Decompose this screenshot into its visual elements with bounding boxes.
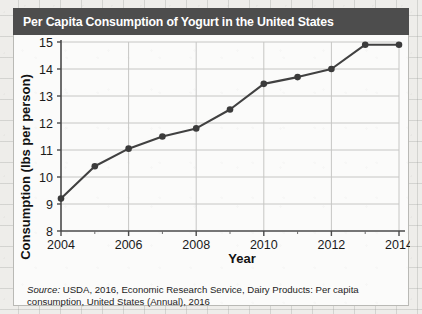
source-label: Source: <box>27 284 60 295</box>
data-point <box>193 125 200 132</box>
source-text: USDA, 2016, Economic Research Service, D… <box>27 284 359 307</box>
data-point <box>328 66 335 73</box>
data-point <box>227 106 234 113</box>
figure-title-bar: Per Capita Consumption of Yogurt in the … <box>13 8 409 35</box>
data-line <box>61 45 399 199</box>
data-point <box>261 81 268 88</box>
x-tick-label: 2006 <box>115 238 143 252</box>
source-note: Source: USDA, 2016, Economic Research Se… <box>27 284 399 309</box>
data-point <box>294 74 301 81</box>
y-tick-label: 11 <box>40 144 53 158</box>
data-point <box>396 41 403 48</box>
gridlines <box>61 42 399 231</box>
x-tick-label: 2010 <box>250 238 278 252</box>
y-tick-label: 15 <box>39 36 53 50</box>
tick-marks <box>57 42 399 236</box>
line-chart: 89101112131415 200420062008201020122014 … <box>14 35 410 267</box>
figure-card: Per Capita Consumption of Yogurt in the … <box>13 8 409 306</box>
data-point <box>92 163 99 170</box>
data-point <box>125 145 132 152</box>
data-point <box>159 133 166 140</box>
x-tick-label: 2014 <box>385 238 410 252</box>
plot-area: 89101112131415 200420062008201020122014 … <box>14 35 410 267</box>
data-point <box>58 195 65 202</box>
y-tick-label: 9 <box>46 198 53 212</box>
y-tick-label: 14 <box>39 63 53 77</box>
x-axis-title: Year <box>228 251 255 266</box>
chart-panel: 89101112131415 200420062008201020122014 … <box>13 35 409 306</box>
x-tick-label: 2012 <box>317 238 345 252</box>
y-tick-label: 12 <box>39 117 53 131</box>
x-tick-label: 2008 <box>182 238 210 252</box>
x-tick-labels: 200420062008201020122014 <box>47 238 410 252</box>
data-markers <box>58 41 403 202</box>
data-point <box>362 41 369 48</box>
y-tick-label: 8 <box>46 225 53 239</box>
figure-title: Per Capita Consumption of Yogurt in the … <box>13 15 334 29</box>
y-tick-labels: 89101112131415 <box>39 36 53 239</box>
y-axis-title: Consumption (lbs per person) <box>18 74 33 260</box>
x-tick-label: 2004 <box>47 238 75 252</box>
y-tick-label: 10 <box>39 171 53 185</box>
y-tick-label: 13 <box>39 90 53 104</box>
